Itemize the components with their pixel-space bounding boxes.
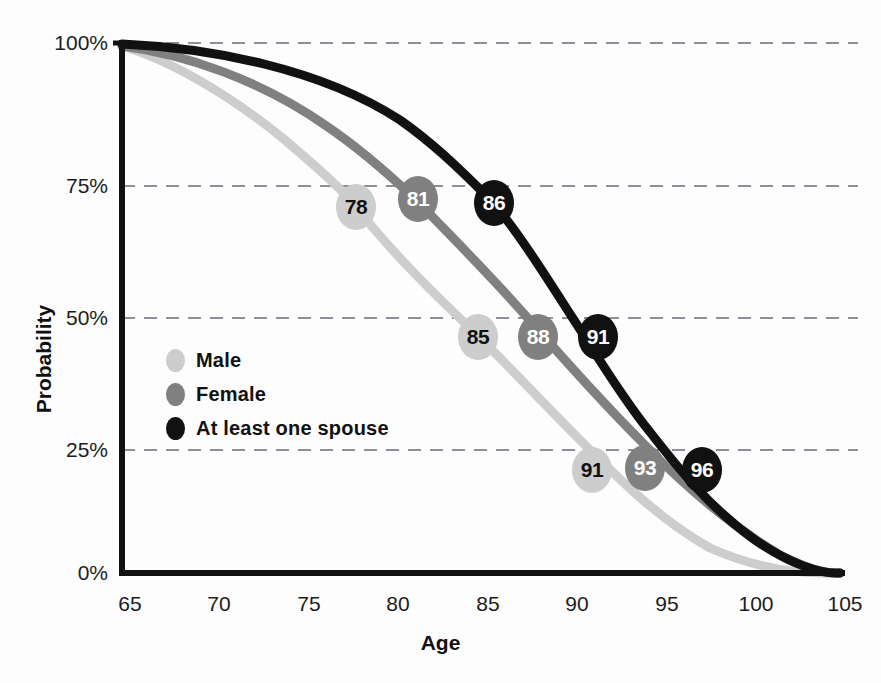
legend-item-female[interactable]: Female: [166, 383, 266, 406]
legend-item-male[interactable]: Male: [166, 349, 241, 372]
y-tick-label-100: 100%: [8, 31, 108, 55]
data-marker-female-50[interactable]: 88: [518, 314, 558, 360]
curve-male: [122, 46, 840, 573]
legend-label-spouse: At least one spouse: [196, 417, 389, 440]
data-marker-male-75[interactable]: 78: [336, 184, 376, 230]
x-tick-label-70: 70: [207, 592, 230, 616]
legend-dot-female-icon: [166, 383, 185, 406]
data-marker-female-75[interactable]: 81: [398, 176, 438, 222]
plot-area: [0, 0, 881, 683]
y-tick-label-25: 25%: [8, 438, 108, 462]
data-marker-spouse-50[interactable]: 91: [578, 314, 618, 360]
data-marker-spouse-75[interactable]: 86: [474, 180, 514, 226]
probability-vs-age-chart: 100% 75% 50% 25% 0% Probability 65 70 75…: [0, 0, 881, 683]
legend-item-spouse[interactable]: At least one spouse: [166, 417, 389, 440]
x-tick-label-80: 80: [386, 592, 409, 616]
x-tick-label-75: 75: [297, 592, 320, 616]
curve-female: [122, 46, 840, 573]
y-tick-label-75: 75%: [8, 174, 108, 198]
x-tick-label-105: 105: [827, 592, 862, 616]
series-curves: [122, 44, 840, 573]
legend-dot-spouse-icon: [166, 417, 185, 440]
x-tick-label-65: 65: [118, 592, 141, 616]
y-tick-label-0: 0%: [8, 561, 108, 585]
x-tick-label-100: 100: [738, 592, 773, 616]
legend-label-male: Male: [196, 349, 241, 372]
legend-dot-male-icon: [166, 349, 185, 372]
data-marker-female-25[interactable]: 93: [625, 445, 665, 491]
x-tick-label-90: 90: [565, 592, 588, 616]
data-marker-spouse-25[interactable]: 96: [682, 447, 722, 493]
curve-spouse: [122, 44, 840, 573]
x-axis-title: Age: [0, 631, 881, 655]
data-marker-male-50[interactable]: 85: [458, 314, 498, 360]
data-marker-male-25[interactable]: 91: [572, 447, 612, 493]
y-axis-title: Probability: [32, 289, 56, 429]
y-tick-label-50: 50%: [8, 306, 108, 330]
x-tick-label-85: 85: [476, 592, 499, 616]
x-tick-label-95: 95: [655, 592, 678, 616]
legend-label-female: Female: [196, 383, 266, 406]
axis-lines: [113, 40, 845, 573]
